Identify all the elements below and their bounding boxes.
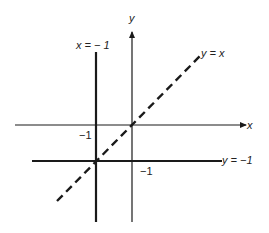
- tick-label-x-neg-one: −1: [140, 165, 153, 177]
- tick-label-y-neg-one: −1: [79, 129, 92, 141]
- y-axis-label: y: [128, 12, 136, 24]
- label-y-equals-x: y = x: [200, 47, 225, 59]
- label-x-equals-neg-one: x = − 1: [75, 39, 110, 51]
- label-y-equals-neg-one: y = −1: [221, 154, 253, 166]
- diagram-canvas: y x x = − 1 y = −1 y = x −1 −1: [0, 0, 269, 233]
- x-axis-label: x: [246, 119, 253, 131]
